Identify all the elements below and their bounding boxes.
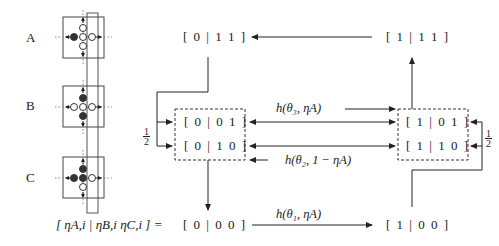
panel-label-c: C: [26, 170, 35, 186]
state-0-11: [ 0 | 1 1 ]: [183, 29, 247, 45]
state-0-10: [ 0 | 1 0 ]: [184, 138, 248, 154]
state-1-11: [ 1 | 1 1 ]: [386, 29, 450, 45]
state-1-01: [ 1 | 0 1 ]: [406, 114, 470, 130]
legend-equation: [ ηA,i | ηB,i ηC,i ] =: [56, 217, 162, 233]
panel-a-grid: [55, 10, 112, 65]
edge-label-top: h(θ₃, ηA): [276, 101, 321, 116]
edge-label-bottom: h(θ₁, ηA): [276, 207, 321, 222]
split-line-left: [157, 57, 208, 146]
panel-b-grid: [55, 80, 112, 134]
fraction-left: 1 2: [143, 127, 150, 146]
edge-label-middle: h(θ₂, 1 − ηA): [285, 153, 351, 168]
panel-label-b: B: [26, 98, 35, 114]
state-0-00: [ 0 | 0 0 ]: [183, 217, 247, 233]
state-1-00: [ 1 | 0 0 ]: [386, 217, 450, 233]
column-highlight: [87, 13, 98, 213]
panel-label-a: A: [26, 30, 35, 46]
panel-c-grid: [55, 150, 112, 205]
fraction-right: 1 2: [485, 129, 492, 148]
state-1-10: [ 1 | 1 0 ]: [406, 138, 470, 154]
split-line-right: [412, 122, 482, 207]
state-0-01: [ 0 | 0 1 ]: [184, 114, 248, 130]
